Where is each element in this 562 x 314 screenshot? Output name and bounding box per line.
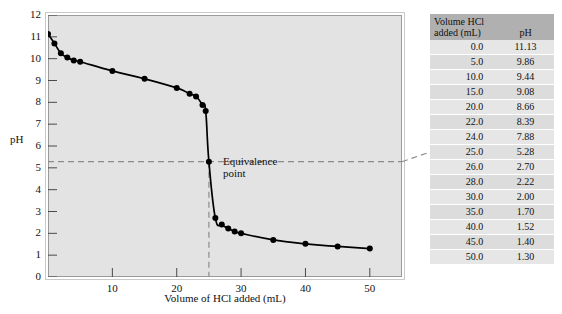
data-point-15 (142, 76, 148, 82)
data-point-10 (109, 68, 115, 74)
x-tick-label-10: 10 (100, 282, 124, 294)
equivalence-label-line2: point (223, 167, 277, 179)
data-point-50 (367, 246, 373, 252)
data-point-3 (64, 55, 70, 61)
cell-ph: 7.88 (497, 130, 554, 145)
table-body: 0.011.135.09.8610.09.4415.09.0820.08.662… (430, 40, 554, 265)
titration-chart: pH Volume of HCl added (mL) 012345678910… (0, 0, 420, 314)
cell-volume: 0.0 (430, 40, 497, 55)
cell-volume: 35.0 (430, 205, 497, 220)
cell-volume: 45.0 (430, 235, 497, 250)
equivalence-label-line1: Equivalence (223, 155, 277, 167)
data-point-1 (51, 40, 57, 46)
cell-ph: 2.00 (497, 190, 554, 205)
y-tick-label-1: 1 (23, 248, 41, 260)
y-axis-ticks (48, 15, 57, 277)
cell-ph: 11.13 (497, 40, 554, 55)
cell-ph: 1.70 (497, 205, 554, 220)
x-tick-label-20: 20 (165, 282, 189, 294)
cell-ph: 1.52 (497, 220, 554, 235)
table-row: 40.01.52 (430, 220, 554, 235)
table-row: 45.01.40 (430, 235, 554, 250)
y-tick-label-3: 3 (23, 205, 41, 217)
cell-volume: 28.0 (430, 175, 497, 190)
table-row: 30.02.00 (430, 190, 554, 205)
y-tick-label-12: 12 (23, 8, 41, 20)
cell-volume: 25.0 (430, 145, 497, 160)
table-header: Volume HCl added (mL) pH (430, 14, 554, 40)
cell-ph: 8.66 (497, 100, 554, 115)
cell-ph: 8.39 (497, 115, 554, 130)
cell-volume: 20.0 (430, 100, 497, 115)
data-point-28 (225, 226, 231, 232)
table-row: 10.09.44 (430, 70, 554, 85)
titration-figure: pH Volume of HCl added (mL) 012345678910… (0, 0, 562, 314)
table-row: 0.011.13 (430, 40, 554, 55)
x-tick-label-40: 40 (293, 282, 317, 294)
y-tick-label-11: 11 (23, 30, 41, 42)
data-point-24.5 (203, 108, 209, 114)
data-point-40 (302, 241, 308, 247)
cell-ph: 2.70 (497, 160, 554, 175)
table-row: 15.09.08 (430, 85, 554, 100)
cell-volume: 26.0 (430, 160, 497, 175)
cell-volume: 15.0 (430, 85, 497, 100)
data-point-4 (71, 57, 77, 63)
cell-ph: 5.28 (497, 145, 554, 160)
y-tick-label-0: 0 (23, 270, 41, 282)
table-row: 28.02.22 (430, 175, 554, 190)
data-point-markers (48, 31, 373, 252)
data-point-24 (199, 102, 205, 108)
cell-volume: 5.0 (430, 55, 497, 70)
data-point-35 (270, 237, 276, 243)
data-point-26 (212, 215, 218, 221)
column-header-volume-line2: added (mL) (434, 27, 493, 38)
data-point-23 (193, 93, 199, 99)
table-row: 22.08.39 (430, 115, 554, 130)
x-tick-label-30: 30 (229, 282, 253, 294)
column-header-ph: pH (497, 14, 554, 40)
y-axis-title: pH (10, 133, 23, 145)
data-point-27 (219, 222, 225, 228)
x-axis-ticks (112, 268, 369, 277)
y-tick-label-8: 8 (23, 95, 41, 107)
y-tick-label-7: 7 (23, 117, 41, 129)
data-point-0 (48, 31, 51, 37)
data-point-2 (58, 50, 64, 56)
data-point-45 (335, 243, 341, 249)
cell-ph: 1.40 (497, 235, 554, 250)
equivalence-point-label: Equivalence point (223, 155, 277, 179)
cell-volume: 30.0 (430, 190, 497, 205)
cell-volume: 50.0 (430, 250, 497, 265)
y-tick-label-2: 2 (23, 226, 41, 238)
cell-volume: 24.0 (430, 130, 497, 145)
data-point-5 (77, 59, 83, 65)
cell-ph: 9.44 (497, 70, 554, 85)
y-tick-label-10: 10 (23, 52, 41, 64)
cell-ph: 9.86 (497, 55, 554, 70)
table-row: 50.01.30 (430, 250, 554, 265)
titration-data-table: Volume HCl added (mL) pH 0.011.135.09.86… (430, 14, 554, 265)
data-point-29 (232, 229, 238, 235)
table-row: 26.02.70 (430, 160, 554, 175)
x-tick-label-50: 50 (358, 282, 382, 294)
y-tick-label-5: 5 (23, 161, 41, 173)
table-row: 35.01.70 (430, 205, 554, 220)
column-header-volume-line1: Volume HCl (434, 16, 493, 27)
cell-ph: 2.22 (497, 175, 554, 190)
data-point-22 (187, 91, 193, 97)
cell-volume: 40.0 (430, 220, 497, 235)
y-tick-label-4: 4 (23, 183, 41, 195)
data-point-25 (206, 159, 212, 165)
cell-ph: 1.30 (497, 250, 554, 265)
y-tick-label-9: 9 (23, 74, 41, 86)
data-point-30 (238, 230, 244, 236)
table-row: 25.05.28 (430, 145, 554, 160)
column-header-volume: Volume HCl added (mL) (430, 14, 497, 40)
cell-ph: 9.08 (497, 85, 554, 100)
table-row: 24.07.88 (430, 130, 554, 145)
data-point-20 (174, 85, 180, 91)
cell-volume: 22.0 (430, 115, 497, 130)
cell-volume: 10.0 (430, 70, 497, 85)
table-row: 20.08.66 (430, 100, 554, 115)
